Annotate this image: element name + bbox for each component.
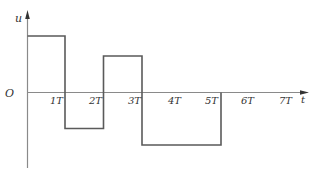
- x-axis-label: t: [301, 94, 306, 105]
- origin-label: O: [5, 87, 14, 100]
- tick-label-7T: 7T: [279, 95, 293, 106]
- y-axis-label: u: [15, 12, 22, 25]
- tick-label-4T: 4T: [167, 95, 182, 106]
- tick-label-6T: 6T: [241, 95, 255, 106]
- y-axis-arrow-icon: [25, 10, 30, 19]
- tick-label-1T: 1T: [50, 95, 64, 106]
- tick-label-5T: 5T: [205, 95, 219, 106]
- tick-label-3T: 3T: [128, 95, 142, 106]
- waveform-line: [28, 36, 222, 145]
- tick-label-2T: 2T: [88, 95, 103, 106]
- waveform-diagram: u O t 1T 2T 3T 4T 5T 6T 7T: [0, 0, 326, 178]
- waveform-svg: u O t 1T 2T 3T 4T 5T 6T 7T: [0, 0, 326, 178]
